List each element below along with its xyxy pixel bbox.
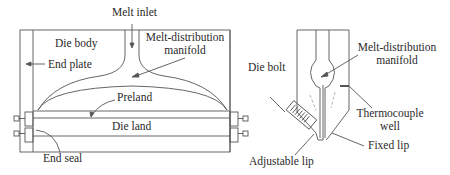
label-preland: Preland bbox=[117, 92, 152, 104]
label-manifold-right-2: manifold bbox=[352, 55, 442, 67]
label-manifold-right-1: Melt-distribution bbox=[352, 42, 442, 54]
label-melt-inlet: Melt inlet bbox=[112, 7, 157, 19]
label-die-body: Die body bbox=[55, 38, 97, 50]
right-end-bolts bbox=[230, 112, 248, 142]
left-end-bolts bbox=[14, 112, 33, 142]
label-die-bolt: Die bolt bbox=[248, 62, 285, 74]
label-manifold-left-2: manifold bbox=[145, 45, 225, 57]
label-fixed-lip: Fixed lip bbox=[368, 140, 409, 152]
label-adjustable-lip: Adjustable lip bbox=[249, 156, 314, 168]
label-thermocouple-2: well bbox=[345, 121, 435, 133]
label-thermocouple-1: Thermocouple bbox=[345, 108, 435, 120]
label-end-plate: End plate bbox=[48, 59, 92, 71]
die-bolt-drawing bbox=[286, 101, 317, 129]
label-manifold-left-1: Melt-distribution bbox=[145, 32, 225, 44]
label-die-land: Die land bbox=[112, 121, 151, 133]
label-end-seal: End seal bbox=[43, 153, 82, 165]
